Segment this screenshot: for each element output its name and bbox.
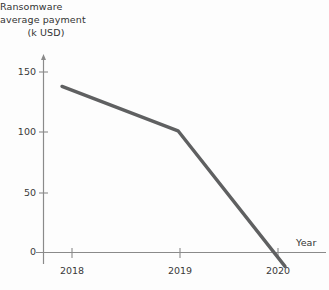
- y-axis-arrow-icon: [41, 54, 46, 60]
- data-series-line: [62, 86, 285, 266]
- line-chart: Ransomware average payment (k USD) Year …: [0, 0, 329, 290]
- plot-area: [0, 0, 329, 290]
